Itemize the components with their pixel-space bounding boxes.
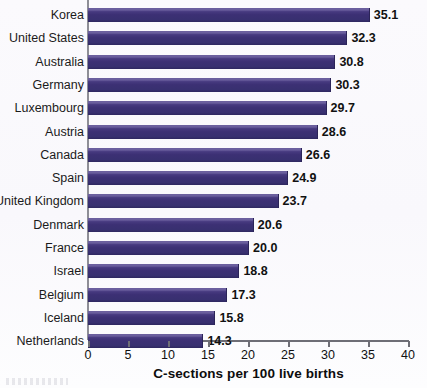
bar-value-label: 30.3 [335, 78, 359, 92]
x-axis-tick [328, 341, 330, 347]
bar [88, 241, 249, 255]
category-label: Netherlands [0, 334, 84, 348]
x-axis-tick-label: 35 [348, 348, 388, 362]
bar-value-label: 20.0 [253, 241, 277, 255]
bar-value-label: 35.1 [374, 8, 398, 22]
category-label: Austria [0, 125, 84, 139]
bar [88, 171, 288, 185]
bar [88, 31, 347, 45]
bar-row [88, 101, 326, 115]
bar-value-label: 24.9 [292, 171, 316, 185]
bar-row [88, 171, 287, 185]
x-axis-tick-label: 15 [188, 348, 228, 362]
x-axis-tick-label: 10 [148, 348, 188, 362]
bar-value-label: 30.8 [339, 55, 363, 69]
category-label: Iceland [0, 311, 84, 325]
bar-value-label: 32.3 [351, 31, 375, 45]
plot-area: Korea35.1United States32.3Australia30.8G… [0, 0, 427, 388]
bar-row [88, 125, 317, 139]
category-label: Canada [0, 148, 84, 162]
x-axis-tick-label: 40 [388, 348, 427, 362]
bar-value-label: 23.7 [283, 194, 307, 208]
bar [88, 194, 279, 208]
x-axis-title: C-sections per 100 live births [88, 366, 409, 381]
x-axis-tick-label: 0 [68, 348, 108, 362]
bar-chart: Korea35.1United States32.3Australia30.8G… [0, 0, 427, 388]
bar [88, 218, 254, 232]
bar-value-label: 29.7 [331, 101, 355, 115]
bar-row [88, 31, 346, 45]
x-axis-tick [128, 341, 130, 347]
bar-value-label: 14.3 [207, 334, 231, 348]
x-axis-tick-label: 25 [268, 348, 308, 362]
bar [88, 148, 302, 162]
bar [88, 78, 331, 92]
x-axis-tick-label: 30 [308, 348, 348, 362]
bar-value-label: 28.6 [322, 125, 346, 139]
bar-row [88, 311, 214, 325]
x-axis-tick [288, 341, 290, 347]
bar [88, 125, 318, 139]
category-label: Australia [0, 55, 84, 69]
bar [88, 8, 370, 22]
bar-value-label: 15.8 [219, 311, 243, 325]
bar [88, 311, 215, 325]
bar-row [88, 194, 278, 208]
category-label: Luxembourg [0, 101, 84, 115]
x-axis-tick [88, 341, 90, 347]
x-axis-tick-label: 20 [228, 348, 268, 362]
bar-value-label: 26.6 [306, 148, 330, 162]
bar-row [88, 148, 301, 162]
category-label: Denmark [0, 218, 84, 232]
category-label: France [0, 241, 84, 255]
bar [88, 264, 239, 278]
bar-row [88, 241, 248, 255]
bar-value-label: 17.3 [231, 288, 255, 302]
x-axis-tick-label: 5 [108, 348, 148, 362]
x-axis-tick [208, 341, 210, 347]
bar-row [88, 288, 226, 302]
bar-row [88, 334, 202, 348]
category-label: Belgium [0, 288, 84, 302]
category-label: Spain [0, 171, 84, 185]
bar-row [88, 218, 253, 232]
bar-value-label: 18.8 [243, 264, 267, 278]
x-axis-tick [368, 341, 370, 347]
category-label: Germany [0, 78, 84, 92]
bar-row [88, 8, 369, 22]
bar [88, 101, 327, 115]
bar-row [88, 55, 334, 69]
bar [88, 334, 203, 348]
category-label: United States [0, 31, 84, 45]
category-label: United Kingdom [0, 194, 84, 208]
x-axis-tick [168, 341, 170, 347]
category-label: Korea [0, 8, 84, 22]
x-axis-tick [408, 341, 410, 347]
bar-row [88, 264, 238, 278]
bar-value-label: 20.6 [258, 218, 282, 232]
x-axis-tick [248, 341, 250, 347]
bar-row [88, 78, 330, 92]
category-label: Israel [0, 264, 84, 278]
bar [88, 55, 335, 69]
bar [88, 288, 227, 302]
